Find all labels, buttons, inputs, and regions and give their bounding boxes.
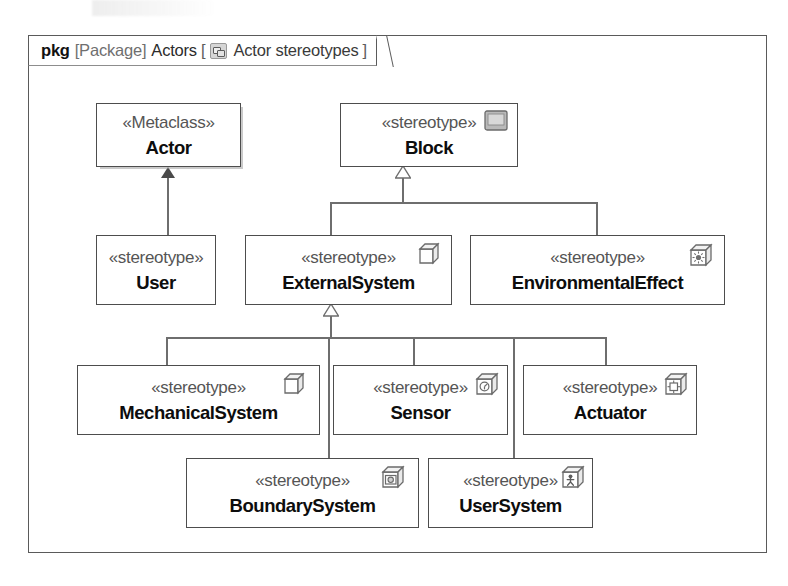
edge-block-stem — [402, 178, 404, 203]
actuator-cube-icon — [662, 372, 689, 397]
bracket-close: ] — [362, 41, 367, 60]
node-externalsystem[interactable]: «stereotype» ExternalSystem — [245, 235, 452, 305]
user-cube-icon — [559, 465, 586, 490]
node-block[interactable]: «stereotype» Block — [340, 103, 518, 167]
node-environmentaleffect-keyword: «stereotype» — [550, 248, 645, 268]
node-user-keyword-line: «stereotype» — [97, 247, 215, 269]
node-boundarysystem[interactable]: «stereotype» BoundarySystem — [186, 458, 419, 528]
cube-icon — [415, 242, 441, 267]
edge-bus-to-externalsystem — [330, 202, 332, 235]
node-usersystem[interactable]: «stereotype» UserSystem — [428, 458, 593, 528]
node-block-keyword: «stereotype» — [382, 113, 477, 133]
node-user-name: User — [136, 272, 175, 294]
sensor-cube-icon — [473, 372, 500, 397]
node-actor[interactable]: «Metaclass» Actor — [96, 103, 241, 167]
stereotype-package-icon — [210, 43, 227, 59]
environment-cube-icon — [686, 242, 714, 268]
node-boundarysystem-name: BoundarySystem — [230, 495, 376, 517]
camera-cube-icon — [379, 465, 406, 490]
node-mechanicalsystem-name: MechanicalSystem — [119, 402, 277, 424]
node-externalsystem-name: ExternalSystem — [282, 272, 415, 294]
node-boundarysystem-keyword: «stereotype» — [255, 471, 350, 491]
node-usersystem-keyword: «stereotype» — [463, 471, 558, 491]
node-actuator[interactable]: «stereotype» Actuator — [523, 365, 697, 435]
cube-icon — [280, 372, 306, 397]
node-environmentaleffect[interactable]: «stereotype» EnvironmentalEffect — [470, 235, 725, 305]
edge-bus-to-actuator — [605, 337, 607, 365]
node-usersystem-name: UserSystem — [459, 495, 561, 517]
package-view-name: Actor stereotypes — [233, 41, 358, 60]
node-sensor-name: Sensor — [390, 402, 450, 424]
scan-artifact — [92, 0, 272, 16]
edge-bus-to-environmentaleffect — [596, 202, 598, 235]
package-metatype: [Package] — [75, 41, 147, 60]
node-sensor-keyword: «stereotype» — [373, 378, 468, 398]
edge-externalsystem-bus — [166, 337, 606, 339]
arrowhead-hollow-externalsystem — [323, 304, 339, 317]
diagram-canvas: pkg [Package] Actors [ Actor stereotypes… — [0, 0, 788, 586]
node-sensor[interactable]: «stereotype» Sensor — [333, 365, 508, 435]
package-frame-header[interactable]: pkg [Package] Actors [ Actor stereotypes… — [28, 35, 377, 66]
edge-user-to-actor — [167, 178, 169, 235]
package-keyword: pkg — [41, 41, 70, 60]
node-block-name: Block — [405, 137, 453, 159]
edge-bus-to-mechanicalsystem — [166, 337, 168, 365]
bracket-open: [ — [201, 41, 206, 60]
node-externalsystem-keyword: «stereotype» — [301, 248, 396, 268]
arrowhead-hollow-block — [395, 166, 411, 179]
arrowhead-filled-actor — [161, 167, 175, 178]
edge-bus-to-boundarysystem — [328, 337, 330, 458]
node-mechanicalsystem[interactable]: «stereotype» MechanicalSystem — [77, 365, 320, 435]
block-icon — [484, 110, 508, 131]
edge-bus-to-sensor — [413, 337, 415, 365]
node-user[interactable]: «stereotype» User — [96, 235, 216, 305]
package-name: Actors — [151, 41, 197, 60]
node-actuator-name: Actuator — [574, 402, 646, 424]
node-environmentaleffect-name: EnvironmentalEffect — [512, 272, 683, 294]
node-mechanicalsystem-keyword: «stereotype» — [151, 378, 246, 398]
node-user-keyword: «stereotype» — [109, 248, 204, 268]
node-actuator-keyword: «stereotype» — [563, 378, 658, 398]
node-actor-name: Actor — [145, 137, 191, 159]
edge-block-bus — [330, 202, 597, 204]
node-actor-keyword-line: «Metaclass» — [97, 112, 240, 134]
edge-externalsystem-stem — [330, 316, 332, 338]
edge-bus-to-usersystem — [513, 337, 515, 458]
node-actor-keyword: «Metaclass» — [122, 113, 214, 133]
